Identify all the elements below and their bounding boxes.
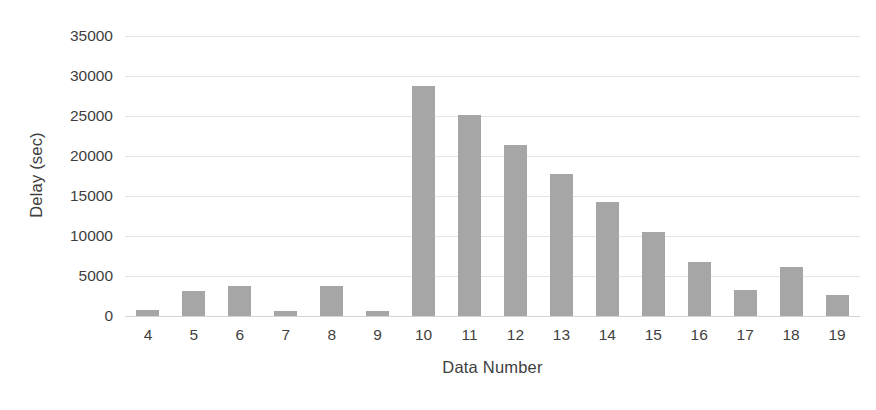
x-axis-tick-label: 9 bbox=[355, 322, 401, 348]
bar[interactable] bbox=[274, 311, 297, 316]
bar[interactable] bbox=[780, 267, 803, 316]
bar-slot bbox=[309, 36, 355, 316]
bar[interactable] bbox=[688, 262, 711, 316]
x-axis-title: Data Number bbox=[125, 358, 860, 377]
y-axis-tick-label: 10000 bbox=[45, 227, 113, 245]
bar-slot bbox=[355, 36, 401, 316]
x-axis-line bbox=[125, 316, 860, 317]
bar[interactable] bbox=[136, 310, 159, 316]
bar[interactable] bbox=[550, 174, 573, 316]
bar-slot bbox=[584, 36, 630, 316]
plot-area bbox=[125, 36, 860, 316]
x-axis-tick-label: 10 bbox=[401, 322, 447, 348]
bar[interactable] bbox=[320, 286, 343, 316]
bar[interactable] bbox=[596, 202, 619, 316]
x-axis-tick-label: 19 bbox=[814, 322, 860, 348]
x-axis-tick-label: 5 bbox=[171, 322, 217, 348]
bar-chart: Delay (sec) 0500010000150002000025000300… bbox=[0, 0, 876, 410]
bar[interactable] bbox=[504, 145, 527, 316]
bar[interactable] bbox=[412, 86, 435, 316]
y-axis-tick-labels: 05000100001500020000250003000035000 bbox=[45, 36, 113, 316]
bar[interactable] bbox=[458, 115, 481, 316]
x-axis-tick-label: 11 bbox=[447, 322, 493, 348]
y-axis-tick-label: 20000 bbox=[45, 147, 113, 165]
x-axis-tick-labels: 45678910111213141516171819 bbox=[125, 322, 860, 348]
bar[interactable] bbox=[228, 286, 251, 316]
bar-series bbox=[125, 36, 860, 316]
x-axis-tick-label: 16 bbox=[676, 322, 722, 348]
x-axis-tick-label: 15 bbox=[630, 322, 676, 348]
x-axis-tick-label: 14 bbox=[584, 322, 630, 348]
bar-slot bbox=[401, 36, 447, 316]
y-axis-tick-label: 30000 bbox=[45, 67, 113, 85]
bar[interactable] bbox=[182, 291, 205, 316]
y-axis-tick-label: 15000 bbox=[45, 187, 113, 205]
bar-slot bbox=[538, 36, 584, 316]
x-axis-tick-label: 6 bbox=[217, 322, 263, 348]
bar-slot bbox=[722, 36, 768, 316]
bar-slot bbox=[493, 36, 539, 316]
bar-slot bbox=[447, 36, 493, 316]
bar[interactable] bbox=[642, 232, 665, 316]
x-axis-tick-label: 18 bbox=[768, 322, 814, 348]
bar-slot bbox=[217, 36, 263, 316]
x-axis-tick-label: 13 bbox=[538, 322, 584, 348]
x-axis-tick-label: 17 bbox=[722, 322, 768, 348]
bar-slot bbox=[768, 36, 814, 316]
bar-slot bbox=[814, 36, 860, 316]
x-axis-tick-label: 12 bbox=[493, 322, 539, 348]
x-axis-tick-label: 4 bbox=[125, 322, 171, 348]
y-axis-tick-label: 35000 bbox=[45, 27, 113, 45]
y-axis-tick-label: 0 bbox=[45, 307, 113, 325]
bar[interactable] bbox=[734, 290, 757, 316]
bar-slot bbox=[171, 36, 217, 316]
bar-slot bbox=[676, 36, 722, 316]
bar-slot bbox=[263, 36, 309, 316]
x-axis-tick-label: 7 bbox=[263, 322, 309, 348]
bar-slot bbox=[125, 36, 171, 316]
y-axis-tick-label: 5000 bbox=[45, 267, 113, 285]
y-axis-tick-label: 25000 bbox=[45, 107, 113, 125]
bar[interactable] bbox=[826, 295, 849, 316]
x-axis-tick-label: 8 bbox=[309, 322, 355, 348]
bar-slot bbox=[630, 36, 676, 316]
bar[interactable] bbox=[366, 311, 389, 316]
